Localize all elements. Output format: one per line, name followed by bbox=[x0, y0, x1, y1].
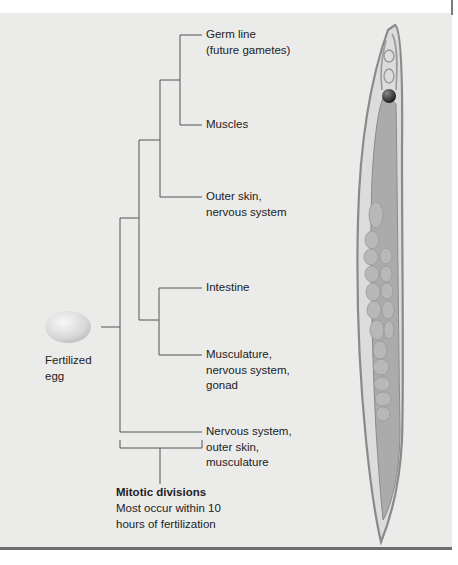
egg-icon bbox=[45, 311, 91, 343]
leaf-label-musculature: Musculature, nervous system, gonad bbox=[206, 347, 290, 394]
root-label-fertilized-egg: Fertilized egg bbox=[45, 353, 92, 384]
annotation-body: Most occur within 10 hours of fertilizat… bbox=[116, 501, 221, 532]
leaf-label-outer-skin: Outer skin, nervous system bbox=[206, 189, 287, 220]
tree-lines bbox=[101, 35, 202, 484]
annotation-title: Mitotic divisions bbox=[116, 485, 206, 501]
leaf-label-germ-line: Germ line (future gametes) bbox=[206, 27, 290, 58]
leaf-label-nervous-system: Nervous system, outer skin, musculature bbox=[206, 424, 292, 471]
nematode-illustration bbox=[357, 25, 402, 542]
leaf-label-intestine: Intestine bbox=[206, 280, 249, 296]
pharynx-bulb-icon bbox=[382, 89, 396, 103]
leaf-label-muscles: Muscles bbox=[206, 117, 248, 133]
